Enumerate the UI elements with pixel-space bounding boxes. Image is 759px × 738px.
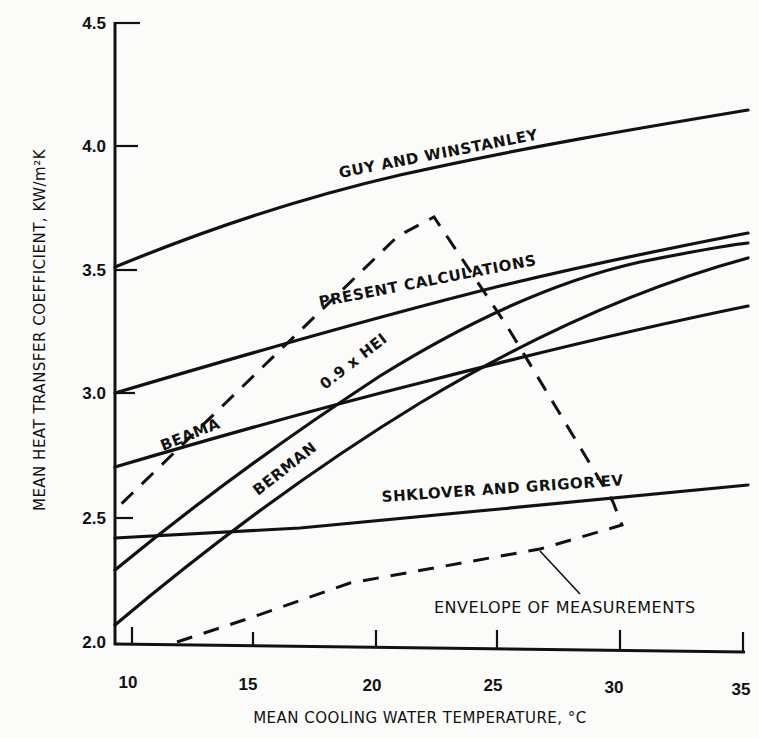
heat-transfer-chart: 4.5 4.0 3.5 3.0 2.5 2.0 10 15 20 25 30 3… [0,0,759,738]
y-axis-title: MEAN HEAT TRANSFER COEFFICIENT, KW/m²K [31,148,49,511]
label-berman: BERMAN [249,438,320,499]
curve-beama [115,306,748,467]
y-tick-label: 2.5 [82,509,106,528]
axes [114,22,745,652]
y-tick-label: 4.5 [82,14,106,33]
x-tick-label: 35 [732,680,751,699]
curve-present-calculations [115,233,748,393]
x-tick-label: 20 [363,676,382,695]
curves [115,110,748,625]
curve-0.9-hei [115,243,748,570]
x-tick-label: 10 [119,673,138,692]
x-tick-label: 30 [605,678,624,697]
envelope-leader [540,551,580,594]
x-tick-label: 15 [239,675,258,694]
label-envelope: ENVELOPE OF MEASUREMENTS [434,598,696,617]
x-tick-label: 25 [484,676,503,695]
curve-labels: GUY AND WINSTANLEY PRESENT CALCULATIONS … [158,125,696,617]
y-tick-labels: 4.5 4.0 3.5 3.0 2.5 2.0 [82,14,106,652]
label-0.9-hei: 0.9 x HEI [316,329,391,393]
curve-guy-winstanley [115,110,748,267]
y-tick-label: 3.0 [82,384,106,403]
label-guy-winstanley: GUY AND WINSTANLEY [337,125,540,181]
curve-berman [115,258,748,625]
y-tick-label: 2.0 [82,633,106,652]
y-tick-label: 4.0 [82,137,106,156]
y-tick-label: 3.5 [82,261,106,280]
leader-lines [540,551,580,594]
label-beama: BEAMA [158,414,223,454]
x-axis [114,644,745,652]
x-tick-labels: 10 15 20 25 30 35 [119,673,751,699]
x-axis-title: MEAN COOLING WATER TEMPERATURE, °C [253,709,587,727]
